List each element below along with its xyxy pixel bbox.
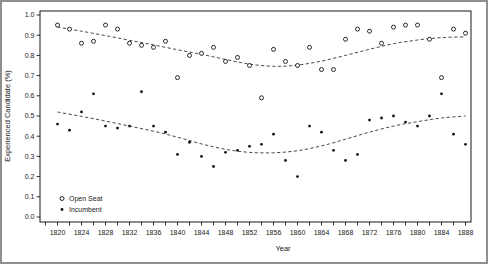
open-seat-point — [428, 37, 432, 41]
incumbent-point — [164, 131, 167, 134]
incumbent-point — [320, 131, 323, 134]
open-seat-point — [92, 39, 96, 43]
open-seat-point — [308, 45, 312, 49]
x-tick-label: 1832 — [122, 229, 138, 236]
incumbent-point — [404, 121, 407, 124]
x-tick-label: 1820 — [50, 229, 66, 236]
x-tick-label: 1860 — [290, 229, 306, 236]
open-seat-point — [176, 76, 180, 80]
incumbent-point — [224, 151, 227, 154]
incumbent-point — [284, 159, 287, 162]
open-seat-point — [68, 27, 72, 31]
incumbent-point — [104, 125, 107, 128]
incumbent-point — [188, 141, 191, 144]
incumbent-point — [176, 153, 179, 156]
open-seat-point — [344, 37, 348, 41]
incumbent-point — [416, 125, 419, 128]
x-tick-label: 1848 — [218, 229, 234, 236]
open-seat-point — [452, 27, 456, 31]
x-tick-label: 1884 — [434, 229, 450, 236]
x-tick-label: 1872 — [362, 229, 378, 236]
x-tick-label: 1856 — [266, 229, 282, 236]
open-seat-point — [212, 45, 216, 49]
y-axis-title: Experienced Candidate (%) — [3, 70, 12, 162]
incumbent-point — [56, 123, 59, 126]
incumbent-point — [272, 133, 275, 136]
incumbent-point — [92, 92, 95, 95]
open-seat-point — [416, 23, 420, 27]
incumbent-point — [368, 119, 371, 122]
incumbent-point — [296, 175, 299, 178]
x-tick-label: 1864 — [314, 229, 330, 236]
open-seat-point — [356, 27, 360, 31]
open-seat-point — [272, 47, 276, 51]
open-seat-point — [368, 29, 372, 33]
incumbent-point — [308, 125, 311, 128]
open-seat-point — [152, 45, 156, 49]
incumbent-point — [236, 149, 239, 152]
x-tick-label: 1824 — [74, 229, 90, 236]
x-tick-label: 1876 — [386, 229, 402, 236]
incumbent-point — [212, 165, 215, 168]
incumbent-point — [140, 90, 143, 93]
open-seat-point — [392, 25, 396, 29]
incumbent-point — [428, 115, 431, 118]
incumbent-point — [68, 129, 71, 132]
incumbent-point — [116, 127, 119, 130]
x-tick-label: 1844 — [194, 229, 210, 236]
y-tick-label: 0.9 — [25, 32, 35, 39]
y-tick-label: 0.3 — [25, 153, 35, 160]
open-seat-point — [464, 31, 468, 35]
plot-area-box — [40, 11, 471, 222]
open-seat-point — [188, 53, 192, 57]
y-tick-label: 1.0 — [25, 11, 35, 18]
open-seat-point — [56, 23, 60, 27]
open-seat-point — [164, 39, 168, 43]
y-tick-label: 0.2 — [25, 173, 35, 180]
legend-open-seat-marker — [60, 197, 64, 201]
incumbent-point — [380, 117, 383, 120]
open-seat-point — [296, 64, 300, 68]
incumbent-point — [344, 159, 347, 162]
incumbent-point — [152, 125, 155, 128]
x-tick-label: 1840 — [170, 229, 186, 236]
open-seat-point — [116, 27, 120, 31]
open-seat-point — [380, 41, 384, 45]
open-seat-point — [284, 59, 288, 63]
incumbent-point — [440, 92, 443, 95]
open-seat-point — [200, 51, 204, 55]
incumbent-point — [392, 115, 395, 118]
open-seat-point — [260, 96, 264, 100]
x-tick-label: 1880 — [410, 229, 426, 236]
incumbent-point — [332, 149, 335, 152]
x-tick-label: 1828 — [98, 229, 114, 236]
y-tick-label: 0.7 — [25, 72, 35, 79]
incumbent-point — [128, 125, 131, 128]
open-seat-point — [404, 23, 408, 27]
figure-frame: 1820182418281832183618401844184818521856… — [0, 0, 488, 264]
x-axis-title: Year — [275, 244, 291, 253]
x-tick-label: 1868 — [338, 229, 354, 236]
legend-incumbent-marker — [61, 208, 64, 211]
open-seat-point — [224, 59, 228, 63]
incumbent-point — [260, 143, 263, 146]
y-tick-label: 0.4 — [25, 133, 35, 140]
open-seat-point — [104, 23, 108, 27]
x-tick-label: 1852 — [242, 229, 258, 236]
incumbent-point — [248, 145, 251, 148]
incumbent-point — [356, 153, 359, 156]
experienced-candidate-scatter-plot: 1820182418281832183618401844184818521856… — [2, 2, 486, 262]
incumbent-point — [464, 143, 467, 146]
open-seat-point — [128, 41, 132, 45]
open-seat-point — [320, 68, 324, 72]
incumbent-point — [200, 155, 203, 158]
legend-label: Incumbent — [69, 206, 102, 213]
incumbent-point — [452, 133, 455, 136]
x-tick-label: 1836 — [146, 229, 162, 236]
open-seat-point — [248, 64, 252, 68]
y-tick-label: 0.5 — [25, 112, 35, 119]
x-tick-label: 1888 — [458, 229, 474, 236]
open-seat-point — [140, 43, 144, 47]
y-tick-label: 0.1 — [25, 193, 35, 200]
open-seat-point — [440, 76, 444, 80]
